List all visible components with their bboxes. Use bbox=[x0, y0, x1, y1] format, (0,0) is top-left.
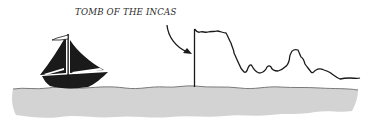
arrow-icon bbox=[167, 25, 192, 54]
water bbox=[12, 86, 358, 118]
tomb-label: TOMB OF THE INCAS bbox=[75, 7, 177, 17]
sailing-ship-icon bbox=[40, 34, 108, 88]
tomb-cliff bbox=[195, 29, 361, 87]
illustration: TOMB OF THE INCAS bbox=[0, 0, 372, 126]
